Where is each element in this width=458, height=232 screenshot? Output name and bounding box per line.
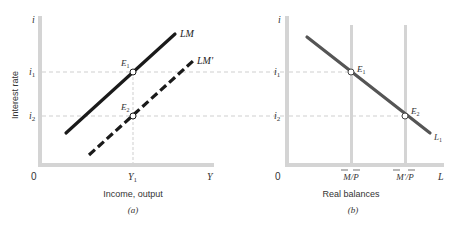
x-axis-a: [38, 163, 214, 167]
x-axis-label-a: Income, output: [103, 189, 163, 199]
caption-b: (b): [348, 205, 359, 215]
panel-a: i i1 i2 Interest rate 0 Y1 Y Income, out…: [10, 14, 214, 215]
y-symbol-a: i: [32, 14, 35, 25]
tick-y1: Y1: [128, 171, 138, 184]
point-e1-a: [130, 69, 136, 75]
y-symbol-b: i: [278, 14, 281, 25]
label-lm: LM: [179, 28, 195, 39]
label-e1-b: E1: [356, 64, 366, 75]
label-e1-a: E1: [120, 58, 130, 69]
lm-curve: [66, 34, 175, 133]
label-e2-b: E2: [410, 106, 420, 117]
caption-a: (a): [128, 205, 139, 215]
tick-i1-b: i1: [274, 66, 281, 79]
is-lm-diagram: i i1 i2 Interest rate 0 Y1 Y Income, out…: [0, 0, 458, 232]
point-e2-b: [402, 113, 408, 119]
point-e1-b: [348, 69, 354, 75]
l1-curve: [307, 37, 430, 133]
origin-a: 0: [31, 171, 37, 182]
y-axis-a: [38, 16, 42, 167]
y-axis-b: [285, 16, 289, 167]
x-axis-b: [285, 163, 444, 167]
origin-b: 0: [275, 171, 281, 182]
tick-mp-prime: M'/P: [395, 172, 414, 182]
tick-i2-b: i2: [274, 110, 281, 123]
money-supply-line: [350, 25, 353, 163]
label-l1: L1: [433, 132, 442, 143]
point-e2-a: [130, 113, 136, 119]
tick-mp: M/P: [342, 172, 359, 182]
label-e2-a: E2: [120, 102, 130, 113]
x-symbol-a: Y: [207, 171, 214, 182]
x-symbol-b: L: [437, 171, 444, 182]
panel-b: i i1 i2 0 M/P M'/P L Real balances (b) E…: [274, 14, 444, 215]
lm-prime-curve: [89, 61, 193, 155]
y-axis-label-a: Interest rate: [10, 71, 20, 119]
tick-i2-a: i2: [29, 110, 36, 123]
label-lm-prime: LM': [196, 55, 214, 66]
tick-i1-a: i1: [29, 66, 36, 79]
money-supply-prime-line: [404, 25, 407, 163]
x-axis-label-b: Real balances: [322, 189, 380, 199]
